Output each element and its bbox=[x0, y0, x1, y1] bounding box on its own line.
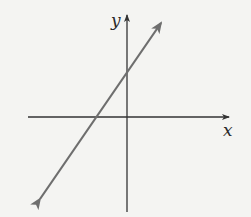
plotted-line bbox=[40, 23, 161, 199]
y-axis-label: y bbox=[110, 10, 121, 30]
x-axis-label: x bbox=[223, 120, 233, 140]
coordinate-plane: y x bbox=[0, 0, 251, 217]
